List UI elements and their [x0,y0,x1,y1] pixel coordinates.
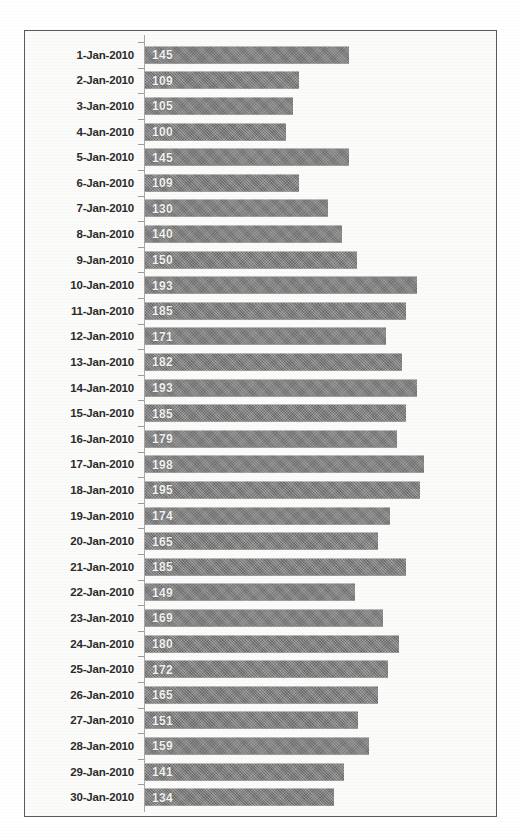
bar: 193 [145,379,417,396]
bar: 185 [145,558,406,575]
category-label: 28-Jan-2010 [70,740,134,752]
bar-row: 1-Jan-2010145 [25,42,496,68]
bar-row: 4-Jan-2010100 [25,119,496,145]
bar-value-label: 145 [152,48,173,62]
category-label: 10-Jan-2010 [70,279,134,291]
category-label: 14-Jan-2010 [70,382,134,394]
axis-tick [138,605,144,606]
category-label: 15-Jan-2010 [70,407,134,419]
bar-value-label: 145 [152,150,173,164]
axis-tick [138,298,144,299]
axis-tick [138,708,144,709]
bar-value-label: 151 [152,713,173,727]
bar-value-label: 193 [152,278,173,292]
category-label: 6-Jan-2010 [77,177,134,189]
axis-tick [138,656,144,657]
bar-row: 29-Jan-2010141 [25,759,496,785]
axis-tick [138,42,144,43]
axis-tick [138,196,144,197]
axis-tick [138,580,144,581]
bar-row: 11-Jan-2010185 [25,298,496,324]
category-label: 16-Jan-2010 [70,433,134,445]
category-label: 1-Jan-2010 [77,49,134,61]
bar-value-label: 141 [152,765,173,779]
category-label: 4-Jan-2010 [77,126,134,138]
bar-row: 3-Jan-2010105 [25,93,496,119]
bar: 185 [145,405,406,422]
bar-value-label: 100 [152,125,173,139]
bar: 165 [145,533,378,550]
bar: 150 [145,251,357,268]
bar-row: 14-Jan-2010193 [25,375,496,401]
bar-row: 30-Jan-2010134 [25,784,496,810]
bar: 172 [145,661,388,678]
bar-row: 17-Jan-2010198 [25,452,496,478]
category-label: 7-Jan-2010 [77,202,134,214]
category-label: 12-Jan-2010 [70,330,134,342]
bar: 134 [145,789,334,806]
bar-row: 13-Jan-2010182 [25,349,496,375]
bar-value-label: 165 [152,688,173,702]
bar-row: 9-Jan-2010150 [25,247,496,273]
category-label: 17-Jan-2010 [70,458,134,470]
bar-value-label: 130 [152,201,173,215]
axis-tick [138,759,144,760]
category-label: 2-Jan-2010 [77,74,134,86]
category-label: 26-Jan-2010 [70,689,134,701]
bar: 141 [145,763,344,780]
category-label: 9-Jan-2010 [77,254,134,266]
bar: 100 [145,123,286,140]
axis-tick [138,400,144,401]
axis-tick [138,554,144,555]
category-label: 19-Jan-2010 [70,510,134,522]
bar-value-label: 150 [152,253,173,267]
bar-row: 12-Jan-2010171 [25,324,496,350]
bar: 145 [145,46,349,63]
axis-tick [138,272,144,273]
bar: 159 [145,737,369,754]
bar-chart-plot-area: 1-Jan-20101452-Jan-20101093-Jan-20101054… [25,31,496,816]
bar: 165 [145,686,378,703]
bar: 185 [145,302,406,319]
category-label: 11-Jan-2010 [71,305,134,317]
category-label: 24-Jan-2010 [70,638,134,650]
bar-row: 23-Jan-2010169 [25,605,496,631]
bar-row: 7-Jan-2010130 [25,196,496,222]
bar: 109 [145,72,299,89]
bar: 198 [145,456,424,473]
category-label: 25-Jan-2010 [70,663,134,675]
bar-value-label: 174 [152,509,173,523]
bar: 109 [145,174,299,191]
category-label: 20-Jan-2010 [70,535,134,547]
bar-row: 8-Jan-2010140 [25,221,496,247]
bar: 105 [145,97,293,114]
axis-tick [138,349,144,350]
bar-value-label: 134 [152,790,173,804]
category-label: 27-Jan-2010 [70,714,134,726]
bar-value-label: 109 [152,176,173,190]
axis-tick [138,426,144,427]
bar-row: 10-Jan-2010193 [25,272,496,298]
category-label: 18-Jan-2010 [70,484,134,496]
axis-tick [138,247,144,248]
category-label: 8-Jan-2010 [77,228,134,240]
bar-value-label: 179 [152,432,173,446]
bar: 180 [145,635,399,652]
axis-tick [138,170,144,171]
bar-row: 5-Jan-2010145 [25,144,496,170]
bar: 151 [145,712,358,729]
category-label: 23-Jan-2010 [70,612,134,624]
bar-value-label: 185 [152,560,173,574]
category-label: 5-Jan-2010 [77,151,134,163]
bar-value-label: 180 [152,637,173,651]
bar-value-label: 169 [152,611,173,625]
bar-value-label: 172 [152,662,173,676]
bar-value-label: 159 [152,739,173,753]
bar: 140 [145,225,342,242]
bar-row: 16-Jan-2010179 [25,426,496,452]
bar: 171 [145,328,386,345]
category-label: 13-Jan-2010 [70,356,134,368]
axis-tick [138,682,144,683]
bar-row: 2-Jan-2010109 [25,68,496,94]
bar-row: 15-Jan-2010185 [25,400,496,426]
